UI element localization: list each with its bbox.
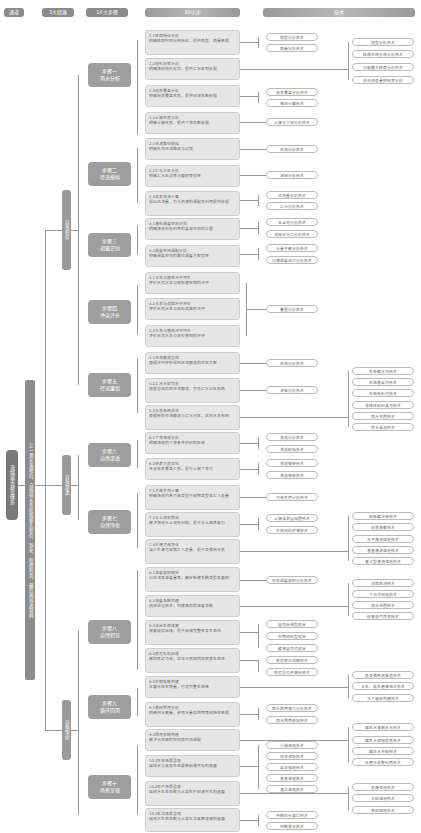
tech-left[interactable]: 径流量分析技术: [266, 191, 318, 199]
tech-right[interactable]: 渗排性碎石溪沟技术: [352, 401, 414, 409]
tech-right[interactable]: 雨水花园技术: [352, 412, 414, 420]
tech-left[interactable]: 土壤水文组分析技术: [266, 118, 318, 126]
tech-right[interactable]: 年径流总量控制率分析: [352, 76, 414, 84]
tech-left[interactable]: 流域分析技术: [266, 171, 318, 179]
tech-right[interactable]: 水下森林构建技术: [352, 694, 414, 702]
step-10[interactable]: 步骤十场景呈现: [88, 775, 131, 799]
tech-right[interactable]: 雨水花园技术: [352, 601, 414, 609]
substep-7-2[interactable]: 7.2水土流失防治解决场地水土流失问题，提升水土涵养能力: [145, 512, 240, 537]
tech-right[interactable]: 生态砾石沟技术: [352, 389, 414, 397]
tech-right[interactable]: 降雨空间分布分析技术: [352, 50, 414, 58]
substep-2-2[interactable]: 2.2汇水分区分析明确汇水区边界与面积等信息: [145, 165, 240, 187]
substep-10-1[interactable]: 10.1生态场景呈现展现水与其他生态要素和谐共存的画面: [145, 755, 240, 777]
substep-6-1[interactable]: 6.1下渗场地分析明确场地内下渗条件较好的区域: [145, 432, 240, 454]
tech-right[interactable]: 再生水湿地提质技术: [352, 736, 414, 744]
substep-8-5[interactable]: 8.5生物系统构建丰富水体生物量，打造完整生态链: [145, 676, 240, 698]
tech-left[interactable]: 径流分析技术: [266, 359, 318, 367]
tech-left[interactable]: 自然岸线型驳岸: [266, 620, 318, 628]
tech-left[interactable]: 流域分析技术: [266, 386, 318, 394]
substep-4-2[interactable]: 4.2水系与道路冲突评价评价天然水系与现有道路的冲突: [145, 298, 240, 320]
substep-5-2[interactable]: 5.2汇水分区完善根据重组后的径流廊道，完善汇水分区布局: [145, 378, 240, 403]
tech-left[interactable]: 污染负荷分析技术: [266, 493, 318, 501]
tech-left[interactable]: 水量平衡分析技术: [266, 244, 318, 252]
tech-left[interactable]: 叠置分析技术: [266, 305, 318, 313]
tech-left[interactable]: 雨水回用模拟技术: [266, 716, 318, 724]
tech-left[interactable]: 雨型分析技术: [266, 33, 318, 41]
substep-7-1[interactable]: 7.1污染负荷计算明确场地内各污染类型污染物类型及汇入总量: [145, 485, 240, 510]
substep-8-2[interactable]: 8.2滞蓄系统构建选择适当技术，构建高效的滞蓄系统: [145, 595, 240, 617]
step-5[interactable]: 步骤五径流重组: [88, 373, 131, 397]
substep-6-2[interactable]: 6.2地表介质优化改善地表覆盖介质，提升土壤下渗力: [145, 458, 240, 480]
step-8[interactable]: 步骤八自然积存: [88, 620, 131, 644]
tech-left[interactable]: 流域出水口分析技术: [266, 230, 318, 238]
substep-10-2[interactable]: 10.2生产场景呈现展现水生态系统与人类生产和谐共生的画面: [145, 781, 240, 806]
tech-left[interactable]: 坡向计算技术: [266, 99, 318, 107]
tech-left[interactable]: 生物材料型驳岸: [266, 632, 318, 640]
step-9[interactable]: 步骤九循环回用: [88, 695, 131, 719]
substep-3-2[interactable]: 3.2调蓄空间调配分析明确调蓄空间的最优调蓄方案信息: [145, 245, 240, 267]
step-1[interactable]: 步骤一雨水分析: [88, 63, 131, 87]
substep-5-3[interactable]: 5.3水系布局优化根据新的径流廊道与汇水分区，优化水系布局: [145, 405, 240, 430]
substep-2-3[interactable]: 2.3地表径流计算得出径流量，为水资源的调配及利用提供依据: [145, 191, 240, 216]
tech-left[interactable]: 雨量分析技术: [266, 44, 318, 52]
tech-right[interactable]: 雨型分析技术: [352, 38, 414, 46]
tech-left[interactable]: 地表覆盖分析技术: [266, 88, 318, 96]
tech-left[interactable]: 渗透模拟技术: [266, 445, 318, 453]
step-6[interactable]: 步骤六自然渗透: [88, 443, 131, 467]
tech-left[interactable]: 传统码头渡口技术: [266, 811, 318, 819]
tech-right[interactable]: 垂直潜流湿地技术: [352, 546, 414, 554]
tech-left[interactable]: 低洼地分析技术: [266, 218, 318, 226]
tech-left[interactable]: 混合湿地技术: [266, 785, 318, 793]
tech-right[interactable]: 可能最大降雨分析技术: [352, 63, 414, 71]
tech-left[interactable]: 生态材料护坡技术: [266, 526, 318, 534]
tech-left[interactable]: 底泥异位资源化技术: [266, 668, 318, 676]
tech-left[interactable]: 林泽湿地技术: [266, 752, 318, 760]
tech-left[interactable]: 底泥原位消解技术: [266, 656, 318, 664]
tech-left[interactable]: 有效调蓄容积分析技术: [266, 576, 318, 584]
tech-right[interactable]: 水平潜流湿地技术: [352, 535, 414, 543]
tech-right[interactable]: 复合型潜流湿地技术: [352, 557, 414, 565]
tech-left[interactable]: 土壤浅表层加固技术: [266, 514, 318, 522]
tech-right[interactable]: 鱼类栖息地营造技术: [352, 671, 414, 679]
substep-1-3[interactable]: 1.3地表覆盖分析明确地表覆盖性质，提供径流系数依据: [145, 85, 240, 107]
substep-7-3[interactable]: 7.3外源污染净化减少外源污染物汇入总量，提升及保持水质: [145, 539, 240, 564]
tech-right[interactable]: 模板缓冲带技术: [352, 512, 414, 520]
step-4[interactable]: 步骤四冲突评价: [88, 300, 131, 324]
tech-right[interactable]: 再生水灌溉补水技术: [352, 723, 414, 731]
tech-right[interactable]: 砂基透气防渗技术: [352, 612, 414, 620]
tech-right[interactable]: 跌水溪流技术: [352, 423, 414, 431]
tech-left[interactable]: 径流分析技术: [266, 145, 318, 153]
tech-left[interactable]: 垂直湿地技术: [266, 774, 318, 782]
substep-1-4[interactable]: 1.4土壤性质分析明确土壤性质，提供下渗系数依据: [145, 112, 240, 134]
tech-left[interactable]: 渗透分析技术: [266, 433, 318, 441]
tech-right[interactable]: 下沉式绿地技术: [352, 590, 414, 598]
tech-right[interactable]: 初雨弃流技术: [352, 579, 414, 587]
substep-1-1[interactable]: 1.1降雨特征分析明确降雨时空分布特征，提供雨型、雨量数据: [145, 30, 240, 55]
substep-8-1[interactable]: 8.1滞蓄容积核定以径流及滞蓄量等，确定新建系统类型及面积: [145, 567, 240, 592]
substep-8-3[interactable]: 8.3滨岸生态修复修复破损岸线，提升岸线完整性及生态性: [145, 620, 240, 645]
tech-left[interactable]: 雨水回用潜力分析技术: [266, 704, 318, 712]
substep-2-1[interactable]: 2.1径流路径模拟明确天然径流路径与过程: [145, 138, 240, 160]
tech-left[interactable]: 汇水分析技术: [266, 202, 318, 210]
tech-right[interactable]: 生态植草沟技术: [352, 378, 414, 386]
substep-3-1[interactable]: 3.1潜在调蓄空间识别明确场地有效利用的蓄滞空间的位置: [145, 218, 240, 240]
tech-left[interactable]: 传统排水技术: [266, 822, 318, 830]
tech-left[interactable]: 渗透铺装技术: [266, 459, 318, 467]
tech-left[interactable]: 草泽湿地技术: [266, 763, 318, 771]
substep-4-3[interactable]: 4.3水系与管网冲突评价评价天然水系与现有管网的冲突: [145, 325, 240, 347]
tech-left[interactable]: 渗透铺装技术: [266, 471, 318, 479]
tech-right[interactable]: 鱼塘湿地技术: [352, 783, 414, 791]
tech-right[interactable]: 水田湿地技术: [352, 794, 414, 802]
substep-8-4[interactable]: 8.4底泥有机治理解除底泥污染，优化水底结构及底质生态性: [145, 648, 240, 673]
tech-right[interactable]: 桑田湿地技术: [352, 806, 414, 814]
substep-10-3[interactable]: 10.3生活场景呈现展现水生态系统与人类生活紧密连接的画面: [145, 808, 240, 832]
substep-1-2[interactable]: 1.2地形地貌分析明确场地地形走势，提供汇水区划依据: [145, 58, 240, 80]
substep-9-1[interactable]: 9.1循环回用分析明确供水需量，获用水量及回用等级弹性数据: [145, 702, 240, 727]
substep-9-2[interactable]: 9.2回用系统构建解决水资源的空间及时间调配: [145, 729, 240, 751]
tech-right[interactable]: 无梗水收集利用技术: [352, 758, 414, 766]
step-7[interactable]: 步骤七自然净化: [88, 510, 131, 534]
step-2[interactable]: 步骤二径流模拟: [88, 162, 131, 186]
substep-4-1[interactable]: 4.1水系与建筑冲突评价评价天然水系与现有建筑物的冲突: [145, 272, 240, 294]
tech-left[interactable]: 缓坡自然式驳岸: [266, 644, 318, 652]
tech-left[interactable]: 小微湿地技术: [266, 741, 318, 749]
